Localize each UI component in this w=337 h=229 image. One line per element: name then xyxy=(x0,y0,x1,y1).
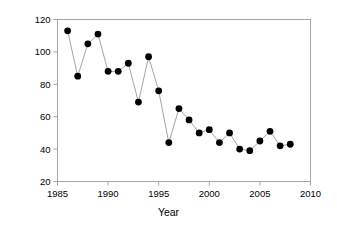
data-point-1990: 1990: 88 xyxy=(105,68,112,75)
x-axis-title: Year xyxy=(0,206,337,218)
data-point-2000: 2000: 52 xyxy=(206,126,213,133)
line-chart-plot: 20406080100120 198519901995200020052010 … xyxy=(0,0,337,229)
y-tick-label-20: 20 xyxy=(40,176,51,187)
data-point-2006: 2006: 51 xyxy=(267,128,274,135)
series-polyline xyxy=(68,31,291,151)
data-point-1994: 1994: 97 xyxy=(145,53,152,60)
y-tick-label-120: 120 xyxy=(35,14,51,25)
data-point-1998: 1998: 58 xyxy=(186,117,193,124)
data-point-2005: 2005: 45 xyxy=(257,138,264,145)
series-markers: 1986: 1131987: 851988: 1051989: 1111990:… xyxy=(64,27,293,154)
chart-container: 20406080100120 198519901995200020052010 … xyxy=(0,0,337,229)
plot-frame xyxy=(58,20,311,182)
data-point-2008: 2008: 43 xyxy=(287,141,294,148)
data-point-2003: 2003: 40 xyxy=(236,146,243,153)
y-axis-tickmarks xyxy=(54,20,58,182)
y-tick-label-80: 80 xyxy=(40,79,51,90)
x-tick-label-1990: 1990 xyxy=(98,188,119,199)
x-tick-label-2000: 2000 xyxy=(199,188,220,199)
y-tick-label-40: 40 xyxy=(40,144,51,155)
data-point-1991: 1991: 88 xyxy=(115,68,122,75)
data-point-1992: 1992: 93 xyxy=(125,60,132,67)
y-axis-tick-labels: 20406080100120 xyxy=(35,14,51,187)
data-point-1997: 1997: 65 xyxy=(176,105,183,112)
data-point-2002: 2002: 50 xyxy=(226,130,233,137)
x-tick-label-2005: 2005 xyxy=(249,188,270,199)
series-line xyxy=(68,31,291,151)
data-point-1987: 1987: 85 xyxy=(74,73,81,80)
data-point-1989: 1989: 111 xyxy=(95,31,102,38)
data-point-1999: 1999: 50 xyxy=(196,130,203,137)
data-point-2004: 2004: 39 xyxy=(246,147,253,154)
data-point-1996: 1996: 44 xyxy=(165,139,172,146)
x-tick-label-1985: 1985 xyxy=(47,188,68,199)
x-tick-label-2010: 2010 xyxy=(300,188,321,199)
data-point-2007: 2007: 42 xyxy=(277,142,284,149)
data-point-1986: 1986: 113 xyxy=(64,27,71,34)
x-tick-label-1995: 1995 xyxy=(148,188,169,199)
y-tick-label-60: 60 xyxy=(40,111,51,122)
y-tick-label-100: 100 xyxy=(35,46,51,57)
data-point-1988: 1988: 105 xyxy=(84,40,91,47)
x-axis-tickmarks xyxy=(58,182,311,186)
data-point-1995: 1995: 76 xyxy=(155,87,162,94)
data-point-1993: 1993: 69 xyxy=(135,99,142,106)
data-point-2001: 2001: 44 xyxy=(216,139,223,146)
x-axis-tick-labels: 198519901995200020052010 xyxy=(47,188,321,199)
